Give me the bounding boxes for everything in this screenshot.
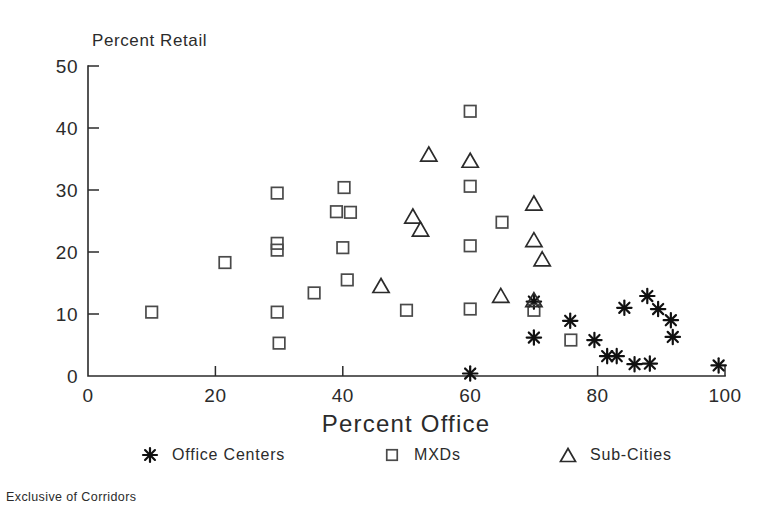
- marker-asterisk: [643, 356, 657, 370]
- marker-asterisk: [610, 349, 624, 363]
- x-tick-label: 40: [332, 385, 354, 406]
- marker-asterisk: [587, 333, 601, 347]
- marker-square: [464, 106, 476, 118]
- chart-legend: Office CentersMXDsSub-Cities: [143, 446, 672, 463]
- marker-triangle: [373, 278, 389, 292]
- marker-square: [271, 244, 283, 256]
- marker-asterisk: [640, 289, 654, 303]
- marker-square: [337, 242, 349, 254]
- marker-triangle: [462, 153, 478, 167]
- marker-triangle: [526, 196, 542, 210]
- y-tick-label: 20: [56, 242, 78, 263]
- legend-asterisk-icon: [143, 448, 157, 462]
- scatter-plot-figure: Percent Retail 01020304050 020406080100 …: [0, 0, 776, 515]
- marker-triangle: [534, 252, 550, 266]
- marker-square: [331, 206, 343, 218]
- marker-square: [308, 287, 320, 299]
- x-axis-title: Percent Office: [322, 410, 490, 437]
- y-axis-ticks: 01020304050: [56, 56, 99, 387]
- series-mxds: [146, 106, 577, 349]
- marker-square: [464, 240, 476, 252]
- marker-asterisk: [664, 313, 678, 327]
- x-tick-label: 80: [587, 385, 609, 406]
- marker-square: [345, 207, 357, 219]
- y-tick-label: 0: [67, 366, 78, 387]
- footnote: Exclusive of Corridors: [6, 490, 136, 504]
- x-axis-title-group: Percent Office: [322, 410, 490, 437]
- series-sub-cities: [373, 147, 550, 307]
- marker-square: [271, 238, 283, 250]
- marker-asterisk: [666, 330, 680, 344]
- marker-square: [273, 337, 285, 349]
- y-axis-title-group: Percent Retail: [92, 31, 207, 50]
- legend-label: MXDs: [414, 446, 461, 463]
- marker-square: [146, 306, 158, 318]
- legend-triangle-icon: [561, 449, 576, 462]
- marker-triangle: [421, 147, 437, 161]
- marker-triangle: [493, 288, 509, 302]
- x-tick-label: 0: [82, 385, 93, 406]
- legend-label: Sub-Cities: [590, 446, 672, 463]
- marker-asterisk: [563, 314, 577, 328]
- marker-square: [271, 306, 283, 318]
- legend-item-office-centers[interactable]: Office Centers: [143, 446, 285, 463]
- legend-label: Office Centers: [172, 446, 285, 463]
- marker-triangle: [526, 233, 542, 247]
- marker-square: [464, 303, 476, 315]
- footnote-group: Exclusive of Corridors: [6, 490, 136, 504]
- marker-asterisk: [463, 366, 477, 380]
- marker-asterisk: [711, 358, 725, 372]
- marker-triangle: [405, 209, 421, 223]
- legend-item-sub-cities[interactable]: Sub-Cities: [561, 446, 672, 463]
- data-point-layer: [146, 106, 726, 381]
- x-tick-label: 20: [204, 385, 226, 406]
- marker-asterisk: [651, 302, 665, 316]
- marker-square: [271, 187, 283, 199]
- marker-square: [464, 181, 476, 193]
- x-axis-ticks: 020406080100: [82, 366, 741, 406]
- x-tick-label: 100: [708, 385, 741, 406]
- marker-square: [342, 274, 354, 286]
- legend-square-icon: [387, 450, 398, 461]
- y-tick-label: 10: [56, 304, 78, 325]
- marker-asterisk: [627, 357, 641, 371]
- x-tick-label: 60: [459, 385, 481, 406]
- marker-square: [338, 182, 350, 194]
- y-tick-label: 50: [56, 56, 78, 77]
- marker-square: [565, 334, 577, 346]
- marker-square: [219, 257, 231, 269]
- chart-canvas: Percent Retail 01020304050 020406080100 …: [0, 0, 776, 515]
- y-tick-label: 30: [56, 180, 78, 201]
- marker-square: [401, 305, 413, 317]
- marker-triangle: [412, 222, 428, 236]
- marker-asterisk: [527, 330, 541, 344]
- marker-square: [496, 216, 508, 228]
- marker-asterisk: [617, 301, 631, 315]
- y-tick-label: 40: [56, 118, 78, 139]
- legend-item-mxds[interactable]: MXDs: [387, 446, 461, 463]
- y-axis-title: Percent Retail: [92, 31, 207, 50]
